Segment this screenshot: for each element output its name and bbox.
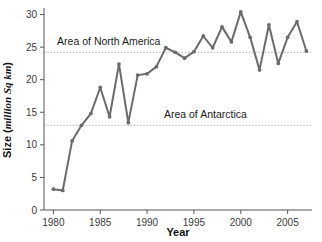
y-tick-label: 0 <box>31 205 37 216</box>
data-point <box>201 34 205 38</box>
chart-background <box>0 0 322 242</box>
y-axis-title-suffix: ) <box>1 62 13 66</box>
y-tick-label: 20 <box>26 74 38 85</box>
x-tick-label: 1990 <box>136 217 159 228</box>
data-point <box>155 65 159 69</box>
data-point <box>173 50 177 54</box>
data-point <box>164 46 168 50</box>
x-tick-label: 2000 <box>230 217 253 228</box>
reference-line-label: Area of North America <box>57 35 160 47</box>
y-axis-title: Size (million Sq km) <box>1 62 13 158</box>
data-point <box>98 86 102 90</box>
data-point <box>211 46 215 50</box>
x-tick-label: 1980 <box>42 217 65 228</box>
data-point <box>89 112 93 116</box>
y-tick-label: 25 <box>26 42 38 53</box>
x-tick-label: 2005 <box>277 217 300 228</box>
data-point <box>126 121 130 125</box>
y-tick-label: 30 <box>26 9 38 20</box>
data-point <box>258 68 262 72</box>
data-point <box>295 20 299 24</box>
data-point <box>136 73 140 77</box>
data-point <box>276 61 280 65</box>
data-point <box>248 35 252 39</box>
data-point <box>61 189 65 193</box>
data-point <box>192 50 196 54</box>
y-tick-label: 15 <box>26 107 38 118</box>
data-point <box>220 25 224 29</box>
data-point <box>80 123 84 127</box>
data-point <box>183 56 187 60</box>
data-point <box>239 10 243 14</box>
chart-container: 051015202530 198019851990199520002005 Ar… <box>0 0 322 242</box>
x-tick-label: 1985 <box>89 217 112 228</box>
data-point <box>145 72 149 76</box>
ozone-hole-line-chart: 051015202530 198019851990199520002005 Ar… <box>0 0 322 242</box>
data-point <box>108 115 112 119</box>
y-tick-label: 5 <box>31 172 37 183</box>
data-point <box>117 62 121 66</box>
data-point <box>51 187 55 191</box>
data-point <box>286 35 290 39</box>
data-point <box>70 139 74 143</box>
y-axis-title-prefix: Size ( <box>1 129 13 158</box>
data-point <box>267 23 271 27</box>
y-axis-title-text: Size (million Sq km) <box>1 62 13 158</box>
x-axis-title: Year <box>166 226 190 238</box>
data-point <box>230 40 234 44</box>
y-axis-title-units: million Sq km <box>1 65 13 129</box>
reference-line-label: Area of Antarctica <box>164 108 247 120</box>
data-point <box>304 49 308 53</box>
y-tick-label: 10 <box>26 139 38 150</box>
